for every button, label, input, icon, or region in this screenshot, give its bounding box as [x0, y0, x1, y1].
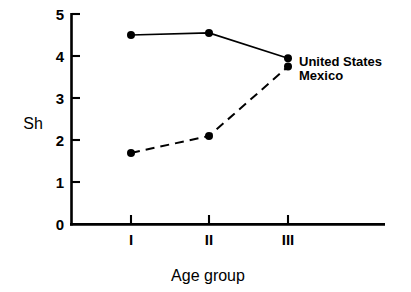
- data-point-mexico-III: [284, 63, 292, 71]
- y-tick-label-4: 4: [56, 48, 65, 65]
- chart-canvas: 5 4 3 2 1 0 I II III Sh Age group United: [0, 0, 411, 292]
- series-label-united-states: United States: [299, 54, 382, 69]
- x-axis-title: Age group: [171, 267, 245, 284]
- series-united-states: [127, 29, 292, 62]
- y-tick-label-0: 0: [56, 216, 64, 233]
- line-chart: 5 4 3 2 1 0 I II III Sh Age group United: [0, 0, 411, 292]
- data-point-mexico-I: [127, 149, 135, 157]
- x-axis-ticks: [131, 215, 288, 224]
- y-tick-label-2: 2: [56, 132, 64, 149]
- y-tick-label-5: 5: [56, 6, 64, 23]
- data-point-united-states-I: [127, 31, 135, 39]
- series-markers-mexico: [127, 63, 292, 157]
- x-tick-label-2: II: [205, 231, 213, 248]
- x-tick-label-3: III: [282, 231, 295, 248]
- y-axis-title: Sh: [23, 115, 43, 132]
- series-mexico: [127, 63, 292, 157]
- series-label-mexico: Mexico: [299, 68, 343, 83]
- y-tick-label-1: 1: [56, 174, 64, 191]
- data-point-mexico-II: [205, 132, 213, 140]
- data-point-united-states-III: [284, 54, 292, 62]
- data-point-united-states-II: [205, 29, 213, 37]
- x-tick-label-1: I: [129, 231, 133, 248]
- y-tick-label-3: 3: [56, 90, 64, 107]
